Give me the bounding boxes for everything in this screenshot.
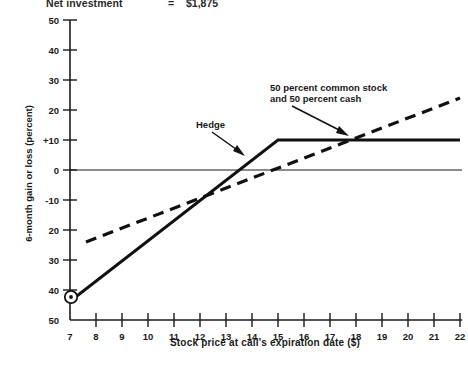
plot-svg (0, 0, 468, 366)
y-tick-label-20n: 20 (34, 225, 59, 236)
y-axis-title: 6-month gain or loss (percent) (23, 84, 34, 264)
y-tick-label-20p: 20 (34, 105, 59, 116)
y-tick-label-30n: 30 (34, 255, 59, 266)
y-tick-label-50p: 50 (34, 15, 59, 26)
annotation-mixed-portfolio-label: 50 percent common stock and 50 percent c… (270, 82, 387, 104)
y-tick-label-0: 0 (34, 165, 59, 176)
x-axis-title: Stock price at call's expiration date ($… (70, 337, 460, 348)
y-tick-label-10p: +10 (30, 135, 59, 146)
chart-figure: Net investment = $1,875 (0, 0, 468, 366)
annotation-mixed-line1: 50 percent common stock (270, 82, 387, 93)
annotation-mixed-line2: and 50 percent cash (270, 93, 387, 104)
y-tick-label-10n: -10 (31, 195, 59, 206)
hedge-start-marker-icon (65, 291, 77, 303)
y-tick-label-40p: 40 (34, 45, 59, 56)
y-tick-label-50n: 50 (34, 315, 59, 326)
series-hedge (73, 140, 460, 299)
y-tick-label-40n: 40 (34, 285, 59, 296)
annotation-hedge-label: Hedge (196, 119, 225, 130)
mixed-annotation-arrow-icon (292, 106, 349, 136)
hedge-annotation-arrow-icon (212, 132, 245, 156)
y-tick-label-30p: 30 (34, 75, 59, 86)
